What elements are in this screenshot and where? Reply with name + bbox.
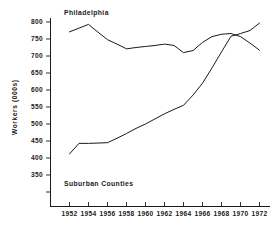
x-tick-label: 1956 (100, 210, 116, 217)
y-tick-label: 650 (31, 69, 43, 76)
x-tick-label: 1962 (157, 210, 173, 217)
x-tick-label: 1964 (176, 210, 192, 217)
x-tick-label: 1954 (81, 210, 97, 217)
x-tick-label: 1966 (195, 210, 211, 217)
x-tick-label: 1960 (138, 210, 154, 217)
line-chart: 800 750 700 650 600 550 500 450 400 350 … (0, 0, 276, 237)
y-tick-label: 750 (31, 35, 43, 42)
y-tick-label: 600 (31, 86, 43, 93)
x-tick-label: 1958 (119, 210, 135, 217)
x-tick-label: 1972 (252, 210, 268, 217)
y-axis-ticks (46, 22, 51, 192)
philadelphia-series-label: Philadelphia (64, 9, 109, 17)
philadelphia-line (70, 24, 260, 52)
suburban-counties-line (70, 23, 260, 154)
y-axis-tick-labels: 800 750 700 650 600 550 500 450 400 350 (31, 18, 43, 178)
y-tick-label: 400 (31, 154, 43, 161)
y-tick-label: 700 (31, 52, 43, 59)
chart-canvas: 800 750 700 650 600 550 500 450 400 350 … (0, 0, 276, 237)
x-tick-label: 1952 (62, 210, 78, 217)
y-tick-label: 550 (31, 103, 43, 110)
x-tick-label: 1968 (214, 210, 230, 217)
x-tick-label: 1970 (233, 210, 249, 217)
y-tick-label: 500 (31, 120, 43, 127)
y-tick-label: 450 (31, 137, 43, 144)
x-axis-tick-labels: 1952 1954 1956 1958 1960 1962 1964 1966 … (62, 210, 268, 217)
x-axis-ticks (70, 202, 260, 207)
y-tick-label: 350 (31, 171, 43, 178)
y-tick-label: 800 (31, 18, 43, 25)
suburban-counties-series-label: Suburban Counties (64, 180, 133, 187)
y-axis-title: Workers (000s) (11, 79, 19, 135)
